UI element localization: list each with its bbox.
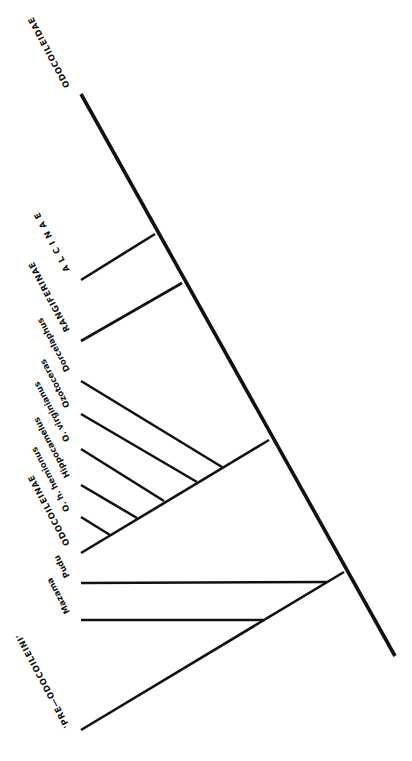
label-alcinae: A L C I N A E (32, 210, 72, 273)
branch-o-h-hemionus (81, 485, 137, 518)
label-group: ODOCOILEIDAE A L C I N A E RANGIFERINAE … (14, 15, 72, 730)
branch-odocoileinae-stem (81, 440, 269, 553)
branch-rangiferinae (81, 283, 182, 341)
label-pudu: Pudu (51, 553, 71, 579)
branch-pre-odocoileini-stem (81, 572, 344, 730)
label-mazama: Mazama (44, 576, 71, 616)
main-trunk (81, 94, 395, 656)
branch-mazama (81, 582, 327, 583)
branch-odocoileinae (81, 517, 110, 535)
label-odocoileidae: ODOCOILEIDAE (26, 15, 72, 90)
cladogram: ODOCOILEIDAE A L C I N A E RANGIFERINAE … (0, 0, 412, 761)
branch-o-virginianus (81, 414, 197, 482)
label-pre-odocoileini: 'PRE—ODOCOILEINI' (14, 632, 72, 730)
branch-alcinae (81, 234, 155, 280)
